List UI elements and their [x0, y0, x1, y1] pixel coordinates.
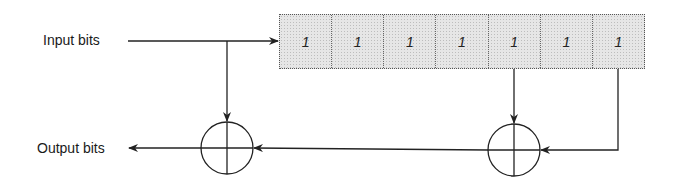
cell7-tap-wire	[541, 69, 618, 150]
xor-right-icon	[488, 124, 540, 176]
wiring	[0, 0, 680, 189]
xor-left-icon	[201, 122, 253, 174]
xor-link-wire	[254, 148, 488, 150]
